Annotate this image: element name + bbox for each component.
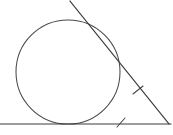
figure-background — [0, 0, 173, 135]
geometry-figure-canvas: Circle inscribed in angle with two tange… — [0, 0, 173, 135]
geometry-diagram-svg — [0, 0, 173, 135]
